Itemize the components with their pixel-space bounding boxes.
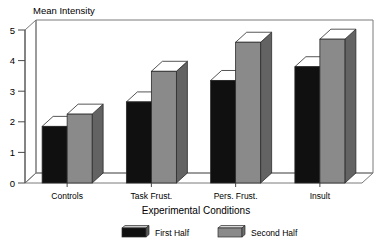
legend-swatch-first-half-side: [146, 226, 149, 238]
bar-side-face: [176, 61, 187, 183]
bar-front-face: [320, 39, 345, 183]
bar-1-2[interactable]: [236, 32, 272, 183]
x-tick-label: Insult: [310, 191, 331, 201]
legend-item-first-half[interactable]: First Half: [122, 226, 190, 239]
bar-front-face: [151, 71, 176, 183]
legend-item-second-half[interactable]: Second Half: [218, 226, 298, 239]
bar-1-0[interactable]: [67, 104, 103, 183]
legend-swatch-second-half-top: [218, 226, 245, 229]
bar-1-1[interactable]: [151, 61, 187, 183]
legend-label-second-half: Second Half: [251, 228, 298, 238]
plot-left-wall: [25, 20, 36, 183]
legend-swatch-first-half: [122, 228, 146, 237]
y-tick-label: 3: [10, 86, 15, 97]
legend-label-first-half: First Half: [155, 228, 190, 238]
legend: First Half Second Half: [122, 226, 298, 239]
y-axis-title: Mean Intensity: [33, 5, 95, 16]
x-tick-label: Pers. Frust.: [214, 191, 258, 201]
bar-front-face: [126, 102, 151, 183]
legend-swatch-second-half-side: [242, 226, 245, 238]
y-tick-label: 4: [10, 55, 15, 66]
bar-chart: 5 4 3 2 1 0 Mean Intensity ControlsTask …: [0, 0, 384, 245]
y-tick-label: 1: [10, 147, 15, 158]
bar-side-face: [92, 104, 103, 183]
bar-1-3[interactable]: [320, 29, 356, 183]
x-tick-label: Task Frust.: [131, 191, 173, 201]
bar-front-face: [236, 42, 261, 183]
x-tick-label: Controls: [51, 191, 83, 201]
y-tick-label: 2: [10, 116, 15, 127]
legend-swatch-second-half: [218, 228, 242, 237]
bar-front-face: [211, 80, 236, 183]
bar-front-face: [42, 126, 67, 183]
chart-svg: 5 4 3 2 1 0 Mean Intensity ControlsTask …: [0, 0, 384, 245]
x-axis-ticks: [67, 183, 320, 187]
y-axis-tick-labels: 5 4 3 2 1 0: [10, 25, 15, 189]
bar-front-face: [295, 67, 320, 183]
bar-front-face: [67, 114, 92, 183]
bar-side-face: [261, 32, 272, 183]
bars-layer: [42, 29, 356, 183]
y-tick-label: 0: [10, 178, 15, 189]
bar-side-face: [345, 29, 356, 183]
x-axis-tick-labels: ControlsTask Frust.Pers. Frust.Insult: [51, 191, 330, 201]
y-tick-label: 5: [10, 25, 15, 36]
legend-swatch-first-half-top: [122, 226, 149, 229]
x-axis-title: Experimental Conditions: [142, 205, 250, 216]
y-axis-ticks: [18, 30, 25, 183]
